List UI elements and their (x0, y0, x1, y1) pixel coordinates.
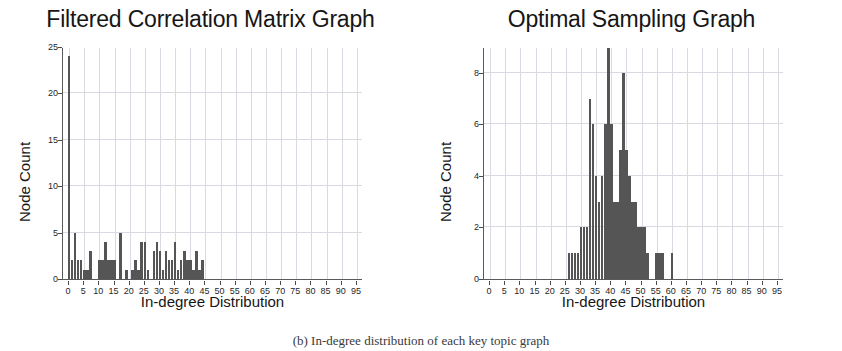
gridline-vertical (84, 48, 85, 279)
chart-title-left: Filtered Correlation Matrix Graph (0, 6, 421, 33)
y-tick-label: 20 (48, 89, 58, 98)
bar (147, 270, 150, 279)
bar (68, 56, 71, 279)
x-tick-mark (326, 281, 327, 285)
x-tick-mark (250, 281, 251, 285)
gridline-vertical (702, 48, 703, 279)
gridline-vertical (296, 48, 297, 279)
gridline-vertical (566, 48, 567, 279)
gridline-vertical (130, 48, 131, 279)
x-tick-mark (777, 281, 778, 285)
plot-wrap-left (62, 48, 362, 280)
y-tick-mark (479, 176, 483, 177)
gridline-vertical (357, 48, 358, 279)
y-tick-mark (479, 124, 483, 125)
x-tick-mark (83, 281, 84, 285)
x-tick-mark (565, 281, 566, 285)
y-tick-mark (479, 227, 483, 228)
gridline-horizontal (63, 232, 362, 233)
gridline-vertical (536, 48, 537, 279)
x-tick-mark (656, 281, 657, 285)
gridline-vertical (490, 48, 491, 279)
x-tick-mark (295, 281, 296, 285)
gridline-vertical (505, 48, 506, 279)
gridline-vertical (672, 48, 673, 279)
x-tick-mark (341, 281, 342, 285)
bar (201, 260, 204, 279)
gridline-horizontal (484, 175, 783, 176)
x-tick-mark (174, 281, 175, 285)
gridline-vertical (778, 48, 779, 279)
y-tick-mark (58, 93, 62, 94)
gridline-vertical (763, 48, 764, 279)
x-tick-mark (595, 281, 596, 285)
gridline-vertical (99, 48, 100, 279)
gridline-horizontal (63, 185, 362, 186)
gridline-vertical (657, 48, 658, 279)
gridline-vertical (732, 48, 733, 279)
y-tick-label: 15 (48, 136, 58, 145)
gridline-vertical (311, 48, 312, 279)
x-tick-mark (144, 281, 145, 285)
x-tick-mark (68, 281, 69, 285)
gridline-vertical (251, 48, 252, 279)
x-tick-mark (747, 281, 748, 285)
x-tick-mark (550, 281, 551, 285)
x-tick-mark (504, 281, 505, 285)
x-tick-mark (716, 281, 717, 285)
y-axis-label-right: Node Count (437, 142, 454, 222)
x-tick-mark (641, 281, 642, 285)
plot-area-left (62, 48, 362, 280)
bar (646, 253, 649, 279)
y-tick-mark (58, 279, 62, 280)
x-tick-mark (610, 281, 611, 285)
y-tick-mark (58, 233, 62, 234)
bar (119, 233, 122, 279)
chart-title-right: Optimal Sampling Graph (421, 6, 842, 33)
x-tick-mark (701, 281, 702, 285)
x-tick-mark (204, 281, 205, 285)
bar (113, 260, 116, 279)
x-tick-mark (189, 281, 190, 285)
y-tick-label: 10 (48, 182, 58, 191)
x-tick-mark (235, 281, 236, 285)
gridline-vertical (717, 48, 718, 279)
y-tick-label: 25 (48, 43, 58, 52)
gridline-vertical (281, 48, 282, 279)
x-tick-mark (129, 281, 130, 285)
x-tick-mark (625, 281, 626, 285)
y-tick-mark (58, 186, 62, 187)
y-tick-mark (58, 140, 62, 141)
x-tick-mark (265, 281, 266, 285)
gridline-vertical (520, 48, 521, 279)
gridline-vertical (160, 48, 161, 279)
x-tick-mark (671, 281, 672, 285)
y-tick-mark (479, 279, 483, 280)
gridline-vertical (221, 48, 222, 279)
x-tick-mark (310, 281, 311, 285)
bar (89, 251, 92, 279)
bar (661, 253, 664, 279)
x-tick-mark (489, 281, 490, 285)
gridline-vertical (687, 48, 688, 279)
gridline-horizontal (484, 123, 783, 124)
x-tick-mark (114, 281, 115, 285)
plot-wrap-right (483, 48, 783, 280)
gridline-horizontal (484, 72, 783, 73)
y-tick-mark (479, 73, 483, 74)
bar (125, 270, 128, 279)
bar (671, 253, 674, 279)
x-tick-mark (280, 281, 281, 285)
gridline-vertical (190, 48, 191, 279)
x-tick-mark (686, 281, 687, 285)
gridline-vertical (266, 48, 267, 279)
gridline-vertical (748, 48, 749, 279)
gridline-vertical (551, 48, 552, 279)
x-tick-mark (762, 281, 763, 285)
x-tick-mark (535, 281, 536, 285)
plot-area-right (483, 48, 783, 280)
x-tick-mark (519, 281, 520, 285)
gridline-vertical (327, 48, 328, 279)
gridline-horizontal (63, 92, 362, 93)
x-tick-mark (356, 281, 357, 285)
